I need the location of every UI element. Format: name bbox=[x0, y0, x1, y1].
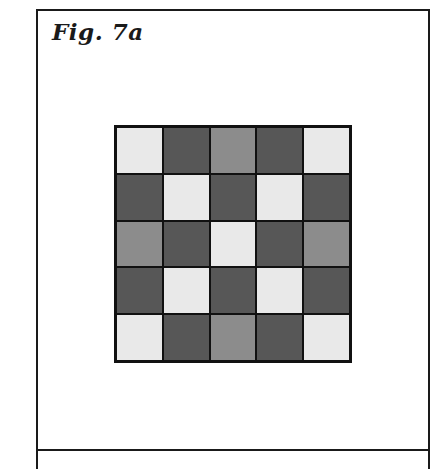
grid-cell bbox=[210, 314, 257, 361]
grid-cell bbox=[116, 127, 163, 174]
grid-cell bbox=[303, 221, 350, 268]
grid-cell bbox=[210, 127, 257, 174]
grid-cell bbox=[163, 314, 210, 361]
grid-cell bbox=[256, 314, 303, 361]
grid-cell bbox=[210, 221, 257, 268]
grid-cell bbox=[303, 267, 350, 314]
figure-label: Fig. 7a bbox=[52, 18, 144, 45]
grid-cell bbox=[116, 267, 163, 314]
grid-cell bbox=[163, 267, 210, 314]
figure-frame-lower bbox=[36, 449, 430, 469]
grid-cell bbox=[116, 221, 163, 268]
grid-cell bbox=[163, 127, 210, 174]
grid-cell bbox=[116, 314, 163, 361]
grid-cell bbox=[210, 267, 257, 314]
grid-cell bbox=[256, 127, 303, 174]
checker-grid bbox=[114, 125, 352, 363]
grid-cell bbox=[163, 221, 210, 268]
grid-cell bbox=[303, 127, 350, 174]
grid-cell bbox=[303, 174, 350, 221]
grid-cell bbox=[256, 221, 303, 268]
grid-cell bbox=[256, 174, 303, 221]
grid-cell bbox=[116, 174, 163, 221]
grid-cell bbox=[256, 267, 303, 314]
grid-cell bbox=[163, 174, 210, 221]
grid-cell bbox=[303, 314, 350, 361]
grid-cell bbox=[210, 174, 257, 221]
